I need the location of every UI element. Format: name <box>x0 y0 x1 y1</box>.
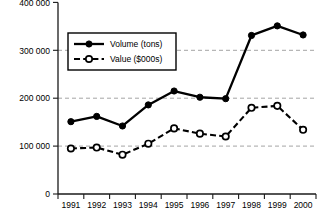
data-point <box>171 88 177 94</box>
data-point <box>145 102 151 108</box>
x-tick-label-1995: 1995 <box>165 200 184 210</box>
y-tick-label-300000: 300 000 <box>19 46 50 56</box>
x-tick-label-1998: 1998 <box>242 200 261 210</box>
y-tick-label-200000: 200 000 <box>19 93 50 103</box>
data-point <box>274 103 280 109</box>
y-tick-label-400000: 400 000 <box>19 0 50 8</box>
data-point <box>197 94 203 100</box>
data-point <box>119 123 125 129</box>
data-point <box>248 32 254 38</box>
legend-value-label: Value ($000s) <box>110 54 162 64</box>
chart-container: 400 000 300 000 200 000 100 000 0 1991 1… <box>0 0 332 221</box>
data-point <box>68 119 74 125</box>
y-tick-label-100000: 100 000 <box>19 141 50 151</box>
x-tick-label-1993: 1993 <box>113 200 132 210</box>
legend-value-marker-icon <box>86 56 92 62</box>
data-point <box>171 125 177 131</box>
data-point <box>223 133 229 139</box>
data-point <box>197 130 203 136</box>
x-tick-label-1996: 1996 <box>190 200 209 210</box>
data-point <box>248 105 254 111</box>
legend-volume-label: Volume (tons) <box>110 39 163 49</box>
value-series-line <box>71 106 303 155</box>
y-tick-label-0: 0 <box>45 189 50 199</box>
x-tick-label-1999: 1999 <box>268 200 287 210</box>
data-point <box>300 127 306 133</box>
data-point <box>223 96 229 102</box>
legend-volume-marker-icon <box>86 41 92 47</box>
x-tick-label-2000: 2000 <box>294 200 313 210</box>
line-chart: 400 000 300 000 200 000 100 000 0 1991 1… <box>0 0 332 221</box>
data-point <box>145 141 151 147</box>
y-tick-marks <box>53 2 58 194</box>
x-tick-marks <box>58 194 316 199</box>
data-point <box>119 152 125 158</box>
y-tick-labels: 400 000 300 000 200 000 100 000 0 <box>19 0 50 199</box>
data-point <box>94 113 100 119</box>
data-point <box>300 32 306 38</box>
data-point <box>68 145 74 151</box>
data-point <box>94 144 100 150</box>
legend: Volume (tons) Value ($000s) <box>68 33 176 70</box>
x-tick-label-1994: 1994 <box>139 200 158 210</box>
data-point <box>274 23 280 29</box>
x-tick-labels: 1991 1992 1993 1994 1995 1996 1997 1998 … <box>61 200 312 210</box>
series-value <box>68 103 307 158</box>
x-tick-label-1991: 1991 <box>61 200 80 210</box>
x-tick-label-1997: 1997 <box>216 200 235 210</box>
x-tick-label-1992: 1992 <box>87 200 106 210</box>
